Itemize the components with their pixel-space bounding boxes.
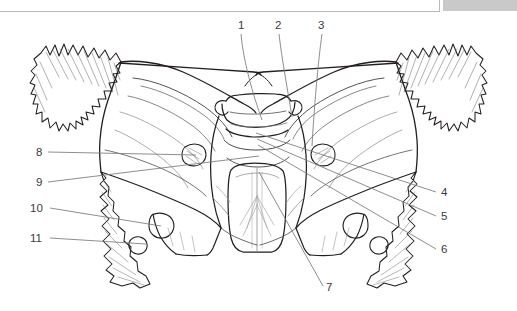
leader-line-7 <box>259 172 323 286</box>
leader-line-10 <box>50 208 161 226</box>
callout-label-4: 4 <box>441 187 447 199</box>
callout-label-7: 7 <box>326 282 332 294</box>
leader-line-8 <box>48 152 196 155</box>
sphenoid-bone-illustration <box>0 0 517 311</box>
callout-label-3: 3 <box>318 20 324 32</box>
leader-line-2 <box>279 34 292 117</box>
leader-line-9 <box>48 156 259 182</box>
callout-label-5: 5 <box>441 211 447 223</box>
callout-label-9: 9 <box>36 177 42 189</box>
callout-label-10: 10 <box>30 203 43 215</box>
callout-label-6: 6 <box>441 244 447 256</box>
leader-line-1 <box>241 34 262 120</box>
callout-label-2: 2 <box>275 20 281 32</box>
leader-line-6 <box>258 145 436 249</box>
callout-label-11: 11 <box>30 233 42 245</box>
callout-label-1: 1 <box>238 20 244 32</box>
leader-line-4 <box>256 133 436 192</box>
callout-label-8: 8 <box>36 147 42 159</box>
figure-page: 1 2 3 4 5 6 7 8 9 10 11 <box>0 0 517 311</box>
